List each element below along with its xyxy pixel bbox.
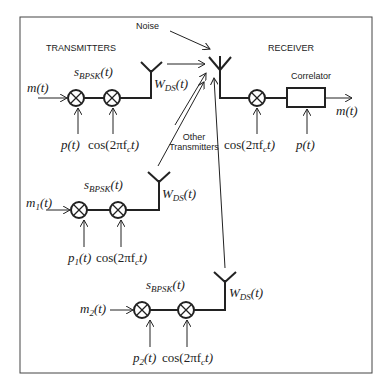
mixer-icon — [249, 90, 265, 106]
mixer-icon — [178, 302, 194, 318]
mixer-icon — [68, 90, 84, 106]
noise-label: Noise — [136, 21, 159, 31]
other-transmitters-label: Other Transmitters — [166, 132, 222, 152]
antenna-icon — [141, 62, 162, 72]
tx1-antenna-label: WDS(t) — [154, 76, 188, 93]
rx-output-label: m(t) — [336, 103, 358, 119]
tx1-input-label: m(t) — [27, 80, 49, 96]
rx-code-label: p(t) — [296, 137, 315, 153]
mixer-icon — [134, 302, 150, 318]
tx2-signal-label: sBPSK(t) — [84, 177, 123, 194]
mixer-icon — [104, 90, 120, 106]
tx3-antenna-label: WDS(t) — [229, 285, 263, 302]
mixer-icon — [110, 202, 126, 218]
rx-carrier-label: cos(2πfct) — [224, 137, 275, 154]
tx1-signal-label: sBPSK(t) — [74, 64, 113, 81]
tx3-carrier-label: cos(2πfct) — [162, 350, 213, 367]
tx2-carrier-label: cos(2πfct) — [96, 250, 147, 267]
tx2-antenna-label: WDS(t) — [162, 186, 196, 203]
correlator-box — [287, 88, 325, 107]
other-transmitters-line1: Other — [166, 132, 222, 142]
tx2-input-label: m1(t) — [26, 195, 52, 212]
tx1-carrier-label: cos(2πfct) — [88, 137, 139, 154]
tx1-code-label: p(t) — [61, 137, 80, 153]
other-transmitters-line2: Transmitters — [166, 142, 222, 152]
tx3-code-label: p2(t) — [133, 350, 156, 367]
receiver-heading: RECEIVER — [268, 43, 314, 53]
correlator-label: Correlator — [291, 71, 331, 81]
tx3-signal-label: sBPSK(t) — [146, 277, 185, 294]
mixer-icon — [71, 202, 87, 218]
transmitters-heading: TRANSMITTERS — [46, 43, 116, 53]
tx2-code-label: p1(t) — [68, 250, 91, 267]
receiver — [209, 56, 352, 134]
tx3-input-label: m2(t) — [80, 301, 106, 318]
